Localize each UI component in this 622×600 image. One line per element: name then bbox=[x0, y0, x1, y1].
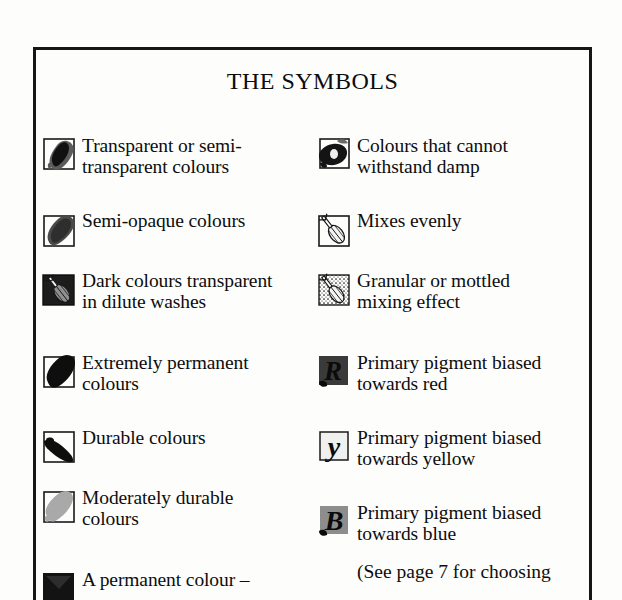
symbol-label-line1: Granular or mottled bbox=[357, 270, 510, 291]
symbol-label-line1: Dark colours transparent bbox=[82, 270, 272, 291]
permanent-colour-swatch-icon bbox=[40, 569, 80, 600]
primary-red-letter: R bbox=[323, 356, 342, 386]
symbol-label: Colours that cannot withstand damp bbox=[357, 134, 508, 177]
extremely-permanent-swatch-icon bbox=[40, 352, 80, 392]
symbol-row[interactable]: Transparent or semi- transparent colours bbox=[40, 134, 312, 180]
not-damp-resistant-swatch-icon bbox=[315, 135, 355, 175]
symbol-row[interactable]: Colours that cannot withstand damp bbox=[315, 134, 587, 180]
symbol-label-line1: Colours that cannot bbox=[357, 135, 508, 156]
symbol-label-line2: transparent colours bbox=[82, 156, 242, 177]
symbol-label: Primary pigment biased towards blue bbox=[357, 501, 541, 544]
symbol-label: Mixes evenly bbox=[357, 209, 461, 231]
symbol-row[interactable]: R Primary pigment biased towards red bbox=[315, 351, 587, 397]
primary-yellow-letter-icon: y bbox=[315, 427, 355, 467]
primary-yellow-letter: y bbox=[325, 431, 341, 462]
symbol-label: Granular or mottled mixing effect bbox=[357, 269, 510, 312]
document-page: THE SYMBOLS Transparent or semi- transpa… bbox=[0, 0, 622, 600]
symbol-label: Dark colours transparent in dilute washe… bbox=[82, 269, 272, 312]
symbol-label-line1: Semi-opaque colours bbox=[82, 210, 245, 231]
symbol-label-line1: A permanent colour – bbox=[82, 569, 250, 590]
symbol-label-line2: colours bbox=[82, 373, 249, 394]
primary-blue-letter: B bbox=[324, 505, 344, 536]
symbol-label: Extremely permanent colours bbox=[82, 351, 249, 394]
symbol-row[interactable]: Dark colours transparent in dilute washe… bbox=[40, 269, 312, 315]
symbol-label-line1: Primary pigment biased bbox=[357, 427, 541, 448]
symbol-row[interactable]: Moderately durable colours bbox=[40, 486, 312, 532]
symbol-row[interactable]: Semi-opaque colours bbox=[40, 209, 312, 255]
granular-mottled-brush-icon bbox=[315, 270, 355, 310]
transparent-swatch-icon bbox=[40, 135, 80, 175]
symbol-row[interactable]: B Primary pigment biased towards blue bbox=[315, 501, 587, 547]
symbol-label-line1: Transparent or semi- bbox=[82, 135, 242, 156]
see-page-note: (See page 7 for choosing bbox=[357, 561, 587, 582]
symbol-label: Durable colours bbox=[82, 426, 206, 448]
symbol-label-line1: Extremely permanent bbox=[82, 352, 249, 373]
symbols-column-left: Transparent or semi- transparent colours… bbox=[40, 134, 312, 600]
primary-red-letter-icon: R bbox=[315, 352, 355, 392]
symbol-row[interactable]: Granular or mottled mixing effect bbox=[315, 269, 587, 315]
symbols-panel-frame: THE SYMBOLS Transparent or semi- transpa… bbox=[33, 47, 592, 600]
symbol-label-line1: Durable colours bbox=[82, 427, 206, 448]
symbol-label-line2: towards red bbox=[357, 373, 541, 394]
symbol-label: Primary pigment biased towards yellow bbox=[357, 426, 541, 469]
dark-colours-swatch-icon bbox=[40, 270, 80, 310]
symbol-label-line2: withstand damp bbox=[357, 156, 508, 177]
symbol-label: Primary pigment biased towards red bbox=[357, 351, 541, 394]
symbol-row[interactable]: Extremely permanent colours bbox=[40, 351, 312, 397]
symbol-label-line2: towards blue bbox=[357, 523, 541, 544]
symbol-label-line1: Moderately durable bbox=[82, 487, 233, 508]
symbol-label-line2: in dilute washes bbox=[82, 291, 272, 312]
symbols-column-right: Colours that cannot withstand damp bbox=[315, 134, 587, 582]
symbol-label: Semi-opaque colours bbox=[82, 209, 245, 231]
symbol-label-line2: mixing effect bbox=[357, 291, 510, 312]
semi-opaque-swatch-icon bbox=[40, 210, 80, 250]
durable-swatch-icon bbox=[40, 427, 80, 467]
symbol-label-line1: Primary pigment biased bbox=[357, 352, 541, 373]
moderately-durable-swatch-icon bbox=[40, 487, 80, 527]
symbol-label-line1: Mixes evenly bbox=[357, 210, 461, 231]
primary-blue-letter-icon: B bbox=[315, 502, 355, 542]
symbol-row[interactable]: Mixes evenly bbox=[315, 209, 587, 255]
symbol-label: Transparent or semi- transparent colours bbox=[82, 134, 242, 177]
symbol-row[interactable]: y Primary pigment biased towards yellow bbox=[315, 426, 587, 472]
symbol-label: A permanent colour – bbox=[82, 568, 250, 590]
symbol-label-line1: Primary pigment biased bbox=[357, 502, 541, 523]
symbol-label: Moderately durable colours bbox=[82, 486, 233, 529]
symbol-row[interactable]: Durable colours bbox=[40, 426, 312, 472]
page-title: THE SYMBOLS bbox=[36, 68, 589, 95]
symbol-label-line2: towards yellow bbox=[357, 448, 541, 469]
symbol-row[interactable]: A permanent colour – bbox=[40, 568, 312, 600]
symbol-label-line2: colours bbox=[82, 508, 233, 529]
mixes-evenly-brush-icon bbox=[315, 210, 355, 250]
